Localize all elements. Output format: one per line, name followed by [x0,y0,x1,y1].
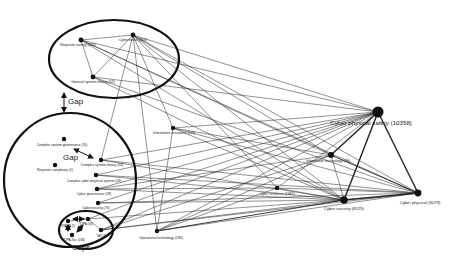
node-label: General system theory (42) [71,80,115,84]
edge-operational_technology-cyber_security [157,200,344,231]
edge-requisite_variety-cyber_security [81,40,344,200]
node-dot-icon[interactable] [155,229,159,233]
node-dot-icon[interactable] [66,219,70,223]
node-label: Complex system theory (24) [81,163,123,167]
node-label: Information technology (26) [306,159,350,163]
node-general_system_theory[interactable]: General system theory (42) [71,75,115,84]
edge-information_assurance-information_technology [173,128,331,155]
node-dot-icon[interactable] [96,201,100,205]
node-dot-icon[interactable] [70,233,74,237]
node-cybernetics[interactable]: Cybernetics (800) [119,33,147,42]
node-complex_system_governance[interactable]: Complex system governance (16) [37,137,88,147]
node-label: STAMP (5) [61,224,76,228]
node-label: Information assurance (119) [153,131,195,135]
node-requisite_complexity[interactable]: Requisite complexity (1) [37,163,73,172]
node-label: STPA (56) [79,222,93,226]
node-dot-icon[interactable] [99,228,103,232]
edge-cybernetics-cyber_physical_safety [133,35,378,112]
gap-label-top: Gap [68,97,84,106]
node-information_assurance[interactable]: Information assurance (119) [153,126,195,135]
gaps-label: Gaps [72,243,90,252]
node-label: Cyber resilience (1481) [259,192,294,196]
edge-operational_technology-cyber_physical [157,193,418,231]
edge-requisite_variety-cyber_physical_safety [81,40,378,112]
annotations-layer: GapGapGaps [63,97,90,252]
node-dot-icon[interactable] [53,163,57,167]
node-label: Requisite variety (245) [60,43,96,47]
edge-operational_technology-cyber_physical_safety [157,112,378,231]
edge-tas-cyber_physical [101,193,418,230]
node-label: Complex system governance (16) [37,143,88,147]
gaps-arrow-2-icon [77,225,83,232]
edge-information_assurance-cyber_physical [173,128,418,193]
node-dot-icon[interactable] [415,190,422,197]
node-dot-icon[interactable] [171,126,175,130]
edge-cyber_governance-cyber_resilience [97,188,277,189]
node-stpa_sec[interactable]: STPA-Sec (186) [63,233,85,242]
graph-canvas: Cybernetics (800)Requisite variety (245)… [0,0,464,269]
gap-label-mid: Gap [63,153,79,162]
node-cyber_governance[interactable]: Cyber governance (28) [77,187,112,196]
edge-complex_cyber_physical_system-cyber_physical [96,175,418,193]
node-complex_system_theory[interactable]: Complex system theory (24) [81,158,123,167]
node-dot-icon[interactable] [131,33,136,38]
edge-tas-cyber_physical_safety [101,112,378,230]
node-label: Operational technology (186) [139,236,183,240]
node-dot-icon[interactable] [99,158,103,162]
node-label: Cyber physical (6079) [400,200,441,205]
edge-cybernetics-cyber_security [133,35,344,200]
node-dot-icon[interactable] [94,173,98,177]
node-dot-icon[interactable] [373,107,384,118]
node-label: Complex cyber physical system (16) [67,179,121,183]
node-dot-icon[interactable] [95,187,99,191]
node-label: Requisite complexity (1) [37,168,73,172]
node-label: TAS (307) [96,234,109,238]
edge-general_system_theory-cyber_physical_safety [93,77,378,112]
node-dot-icon[interactable] [275,186,279,190]
node-complex_cyber_physical_system[interactable]: Complex cyber physical system (16) [67,173,121,183]
node-dot-icon[interactable] [62,137,66,141]
nodes-layer: Cybernetics (800)Requisite variety (245)… [37,33,441,242]
node-dot-icon[interactable] [86,217,90,221]
node-dot-icon[interactable] [340,196,348,204]
node-label: Cybernetics (800) [119,38,147,42]
node-cyber_physical_safety[interactable]: Cyber physical safety (10358) [330,107,412,127]
edge-complex_system_theory-cyber_security [101,160,344,200]
node-dot-icon[interactable] [328,152,334,158]
node-label: Cyber security (8125) [324,206,365,211]
network-diagram: Cybernetics (800)Requisite variety (245)… [0,0,464,269]
node-dot-icon[interactable] [79,38,84,43]
node-label: Cyber governance (28) [77,192,112,196]
node-label: STPA-Sec (186) [63,238,85,242]
node-label: Cyber physical safety (10358) [330,119,412,126]
node-label: Cybersecurity (76) [82,206,110,210]
node-dot-icon[interactable] [91,75,96,80]
node-cybersecurity[interactable]: Cybersecurity (76) [82,201,110,210]
edges-layer [68,35,418,231]
